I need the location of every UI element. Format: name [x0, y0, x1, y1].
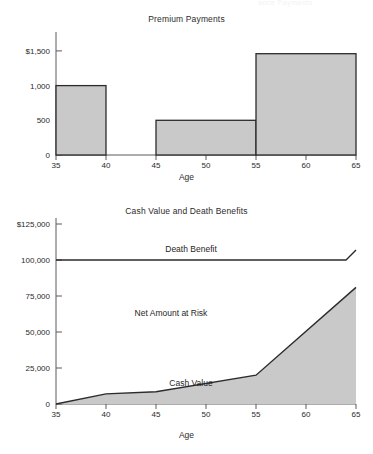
premium-xtick-50: 50: [202, 161, 211, 170]
premium-ytick-0: 0: [6, 151, 50, 160]
cash-ytick-25000: 25,000: [0, 364, 50, 373]
cash-xtick-55: 55: [252, 410, 261, 419]
annotation-cash-value: Cash Value: [169, 378, 212, 388]
scanned-chart-page: ance Payments Premium Payments: [0, 0, 373, 454]
premium-ytick-1000: 1,000: [6, 82, 50, 91]
cash-xtick-65: 65: [352, 410, 361, 419]
premium-bar-35-40: [56, 86, 106, 155]
premium-x-ticks: [56, 155, 356, 160]
premium-xtick-35: 35: [52, 161, 61, 170]
cash-x-axis-label: Age: [0, 430, 373, 440]
cash-xtick-60: 60: [302, 410, 311, 419]
premium-xtick-60: 60: [302, 161, 311, 170]
cash-plot-area: 0 25,000 50,000 75,000 100,000 $125,000 …: [0, 196, 373, 428]
premium-xtick-40: 40: [102, 161, 111, 170]
cash-value-death-benefits-chart: Cash Value and Death Benefits: [0, 196, 373, 454]
premium-bars: [56, 54, 356, 155]
cash-ytick-75000: 75,000: [0, 292, 50, 301]
premium-plot-svg: [0, 0, 373, 170]
annotation-net-amount-at-risk: Net Amount at Risk: [135, 308, 208, 318]
cash-ytick-100000: 100,000: [0, 256, 50, 265]
premium-xtick-65: 65: [352, 161, 361, 170]
premium-xtick-45: 45: [152, 161, 161, 170]
premium-ytick-1500: $1,500: [6, 47, 50, 56]
premium-payments-chart: Premium Payments: [0, 0, 373, 196]
cash-ytick-125000: $125,000: [0, 220, 50, 229]
cash-xtick-45: 45: [152, 410, 161, 419]
premium-plot-area: 0 500 1,000 $1,500 35 40 45 50 55 60 65: [0, 0, 373, 170]
premium-x-axis-label: Age: [0, 172, 373, 182]
cash-x-ticks: [56, 404, 356, 409]
cash-xtick-50: 50: [202, 410, 211, 419]
cash-y-ticks: [56, 224, 62, 404]
premium-bar-55-65: [256, 54, 356, 155]
cash-xtick-40: 40: [102, 410, 111, 419]
premium-ytick-500: 500: [6, 116, 50, 125]
premium-xtick-55: 55: [252, 161, 261, 170]
cash-ytick-0: 0: [0, 400, 50, 409]
cash-xtick-35: 35: [52, 410, 61, 419]
annotation-death-benefit: Death Benefit: [165, 244, 217, 254]
cash-ytick-50000: 50,000: [0, 328, 50, 337]
premium-bar-45-55: [156, 120, 256, 155]
